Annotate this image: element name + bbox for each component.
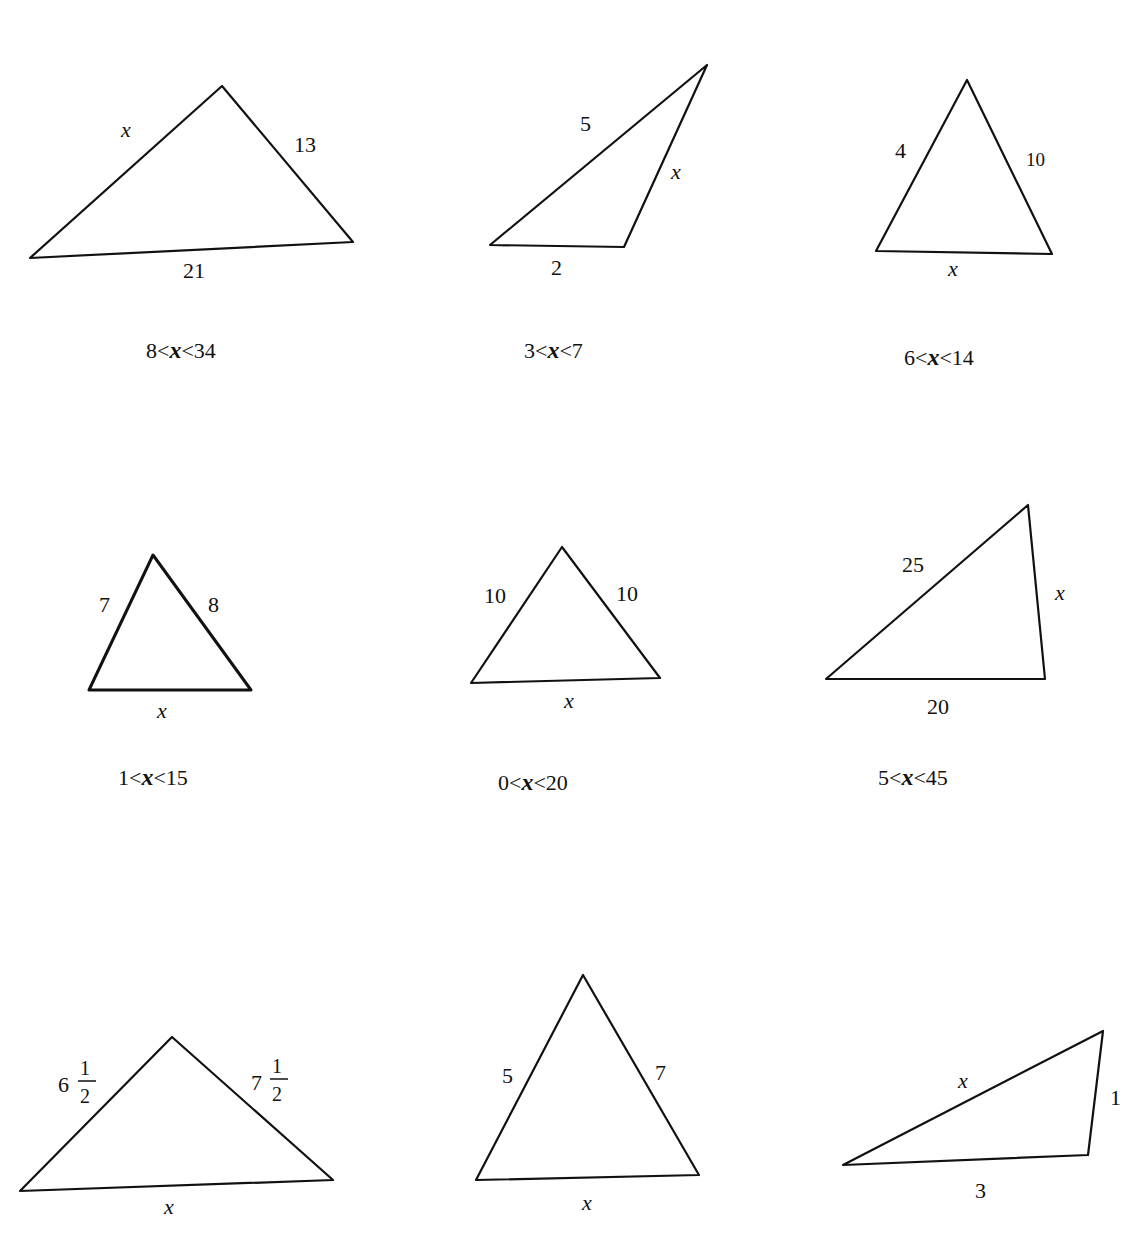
triangle-4-side-b-label: 8 [208, 592, 219, 617]
triangle-6-range: 5<x<45 [878, 764, 948, 790]
triangle-2-side-b-label: x [670, 159, 681, 184]
triangle-6-shape [826, 505, 1045, 679]
fraction-denominator: 2 [80, 1085, 90, 1107]
triangle-6-side-b-label: x [1054, 580, 1065, 605]
triangle-4-range: 1<x<15 [118, 764, 188, 790]
triangle-3-side-a-label: 4 [895, 138, 906, 163]
triangle-8-side-a-label: 5 [502, 1063, 513, 1088]
triangle-figure-6: 25 x 20 5<x<45 [826, 505, 1065, 790]
triangle-figure-7: 6 1 2 7 1 2 x [20, 1037, 333, 1219]
fraction-whole: 7 [251, 1070, 262, 1095]
triangle-4-side-a-label: 7 [99, 592, 110, 617]
triangle-4-shape [89, 555, 251, 690]
triangle-figure-5: 10 10 x 0<x<20 [471, 547, 660, 795]
triangle-figure-4: 7 8 x 1<x<15 [89, 555, 251, 790]
triangle-1-side-a-label: x [120, 117, 131, 142]
triangle-figure-8: 5 7 x [476, 975, 699, 1215]
triangle-worksheet: x 13 21 8<x<34 5 x 2 3<x<7 4 10 x 6<x<14… [0, 0, 1139, 1241]
triangle-2-side-a-label: 5 [580, 111, 591, 136]
triangle-5-side-b-label: 10 [616, 581, 638, 606]
triangle-6-side-c-label: 20 [927, 694, 949, 719]
triangle-8-side-c-label: x [581, 1190, 592, 1215]
triangle-5-side-a-label: 10 [484, 583, 506, 608]
triangle-4-side-c-label: x [156, 698, 167, 723]
triangle-3-range: 6<x<14 [904, 344, 974, 370]
triangle-figure-3: 4 10 x 6<x<14 [876, 80, 1052, 370]
triangle-figure-1: x 13 21 8<x<34 [30, 86, 353, 363]
triangle-5-side-c-label: x [563, 688, 574, 713]
fraction-whole: 6 [58, 1072, 69, 1097]
triangle-7-side-c-label: x [163, 1194, 174, 1219]
triangle-7-shape [20, 1037, 333, 1191]
triangle-3-side-b-label: 10 [1026, 149, 1045, 170]
triangle-5-shape [471, 547, 660, 683]
triangle-5-range: 0<x<20 [498, 769, 568, 795]
triangle-2-side-c-label: 2 [551, 255, 562, 280]
triangle-9-shape [843, 1031, 1103, 1165]
fraction-numerator: 1 [80, 1057, 90, 1079]
triangle-7-side-b-mixed-fraction: 7 1 2 [251, 1055, 288, 1105]
triangle-9-side-a-label: x [957, 1068, 968, 1093]
fraction-denominator: 2 [272, 1083, 282, 1105]
triangle-9-side-b-label: 1 [1110, 1085, 1121, 1110]
triangle-2-shape [490, 65, 707, 247]
triangle-figure-9: x 1 3 [843, 1031, 1121, 1203]
triangle-1-shape [30, 86, 353, 258]
fraction-numerator: 1 [272, 1055, 282, 1077]
triangle-1-range: 8<x<34 [146, 337, 216, 363]
triangle-2-range: 3<x<7 [524, 337, 583, 363]
triangle-1-side-b-label: 13 [294, 132, 316, 157]
triangle-9-side-c-label: 3 [975, 1178, 986, 1203]
triangle-8-side-b-label: 7 [655, 1060, 666, 1085]
triangle-3-side-c-label: x [947, 256, 958, 281]
triangle-6-side-a-label: 25 [902, 552, 924, 577]
triangle-figure-2: 5 x 2 3<x<7 [490, 65, 707, 363]
triangle-1-side-c-label: 21 [183, 258, 205, 283]
triangle-7-side-a-mixed-fraction: 6 1 2 [58, 1057, 96, 1107]
